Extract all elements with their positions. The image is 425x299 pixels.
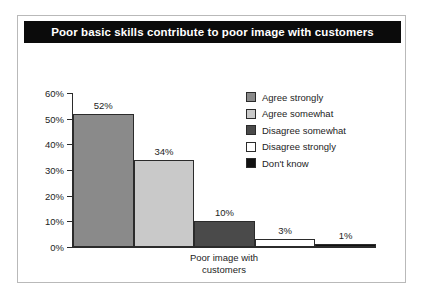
- bar-value-label: 1%: [315, 231, 376, 241]
- legend-item: Disagree strongly: [246, 139, 396, 156]
- bar-value-label: 3%: [255, 226, 316, 236]
- bar-value-label: 10%: [194, 208, 255, 218]
- y-tick-label: 60%: [24, 89, 64, 99]
- bar-value-label: 34%: [134, 147, 195, 157]
- legend-swatch-icon: [246, 142, 256, 152]
- legend-item-label: Disagree somewhat: [262, 126, 346, 136]
- legend-swatch-icon: [246, 109, 256, 119]
- legend-item: Agree somewhat: [246, 106, 396, 123]
- chart-legend: Agree stronglyAgree somewhatDisagree som…: [246, 89, 396, 172]
- legend-item-label: Agree strongly: [262, 93, 323, 103]
- y-tick-label: 50%: [24, 115, 64, 125]
- bar-value-label: 52%: [73, 101, 134, 111]
- legend-swatch-icon: [246, 125, 256, 135]
- legend-item-label: Disagree strongly: [262, 142, 336, 152]
- bar: [255, 239, 316, 247]
- page-title: Poor basic skills contribute to poor ima…: [51, 26, 374, 38]
- y-tick-label: 20%: [24, 192, 64, 202]
- legend-swatch-icon: [246, 92, 256, 102]
- x-axis-line: [72, 247, 376, 248]
- chart-title-bar: Poor basic skills contribute to poor ima…: [24, 21, 401, 43]
- bar: [194, 221, 255, 247]
- legend-item-label: Don't know: [262, 159, 309, 169]
- bar: [134, 160, 195, 247]
- bar: [73, 114, 134, 247]
- bar: [315, 244, 376, 247]
- chart-panel: Poor basic skills contribute to poor ima…: [17, 15, 406, 283]
- x-axis-category-label: Poor image with customers: [134, 252, 314, 276]
- y-tick-label: 0%: [24, 243, 64, 253]
- x-axis-category-line-2: customers: [134, 264, 314, 276]
- x-axis-category-line-1: Poor image with: [134, 252, 314, 264]
- legend-item: Disagree somewhat: [246, 122, 396, 139]
- plot-area: 60% 50% 40% 30% 20% 10% 0% 52%34%10%3%1%: [24, 49, 401, 277]
- legend-item: Agree strongly: [246, 89, 396, 106]
- legend-item: Don't know: [246, 155, 396, 172]
- y-tick-label: 10%: [24, 217, 64, 227]
- y-tick-label: 40%: [24, 140, 64, 150]
- legend-item-label: Agree somewhat: [262, 109, 333, 119]
- y-tick-label: 30%: [24, 166, 64, 176]
- legend-swatch-icon: [246, 158, 256, 168]
